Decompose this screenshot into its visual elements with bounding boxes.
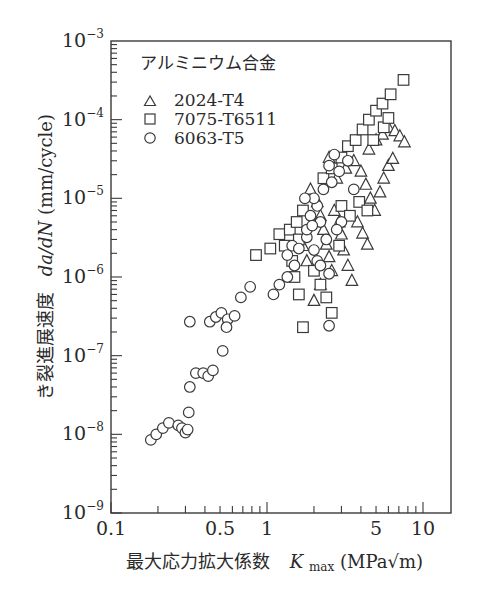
legend-entry-2024-t4: 2024-T4	[145, 90, 245, 110]
circle-marker-icon	[245, 282, 256, 293]
plot-frame	[111, 41, 451, 513]
legend-title: アルミニウム合金	[140, 53, 276, 73]
circle-marker-icon	[324, 320, 335, 331]
triangle-marker-icon	[323, 251, 335, 262]
square-marker-icon	[326, 308, 337, 319]
square-marker-icon	[251, 250, 262, 261]
legend: アルミニウム合金 2024-T4 7075-T6511 6063-T5	[140, 53, 277, 148]
x-axis-tick-labels: 0.10.51510	[96, 517, 435, 539]
circle-marker-icon	[182, 424, 193, 435]
square-marker-icon	[398, 75, 409, 86]
square-marker-icon	[385, 89, 396, 100]
triangle-marker-icon	[378, 172, 390, 183]
circle-marker-icon	[326, 177, 337, 188]
triangle-marker-icon	[387, 152, 399, 163]
y-axis-tick-labels: 10−910−810−710−610−510−410−3	[62, 27, 104, 523]
y-axis-title: き裂進展速度 da/dN (mm/cycle)	[35, 114, 56, 400]
triangle-marker-icon	[346, 274, 358, 285]
circle-marker-icon	[331, 224, 342, 235]
square-marker-icon	[265, 243, 276, 254]
circle-marker-icon	[185, 316, 196, 327]
square-marker-icon	[298, 322, 309, 333]
circle-marker-icon	[324, 160, 335, 171]
svg-text:き裂進展速度 da/dN (mm/c: き裂進展速度 da/dN (mm/cycle)	[35, 114, 56, 400]
y-tick-label: 10−7	[62, 342, 104, 366]
circle-marker-icon	[329, 149, 340, 160]
circle-marker-icon	[324, 268, 335, 279]
square-marker-icon	[362, 205, 373, 216]
triangle-marker-icon	[308, 294, 320, 305]
circle-marker-icon	[229, 311, 240, 322]
x-axis-symbol: K	[289, 551, 305, 572]
circle-marker-icon	[183, 407, 194, 418]
square-marker-icon	[357, 124, 368, 135]
legend-label: 2024-T4	[174, 90, 245, 110]
circle-marker-icon	[315, 260, 326, 271]
circle-marker-icon	[282, 272, 293, 283]
square-marker-icon	[321, 292, 332, 303]
x-axis-subscript: max	[309, 560, 335, 574]
circle-marker-icon	[307, 220, 318, 231]
x-tick-label: 0.1	[96, 517, 126, 539]
square-marker-icon	[336, 201, 347, 212]
circle-marker-icon	[321, 234, 332, 245]
square-marker-icon	[294, 289, 305, 300]
triangle-marker-icon	[365, 192, 377, 203]
square-marker-icon	[291, 217, 302, 228]
circle-marker-icon	[208, 365, 219, 376]
triangle-marker-icon	[374, 186, 386, 197]
triangle-marker-icon	[145, 96, 156, 106]
x-axis-ticks	[111, 502, 423, 513]
crack-growth-chart: 0.10.51510 10−910−810−710−610−510−410−3 …	[0, 0, 491, 604]
y-tick-label: 10−3	[62, 27, 104, 51]
x-axis-title-prefix: 最大応力拡大係数	[126, 551, 270, 572]
circle-marker-icon	[236, 292, 247, 303]
triangle-marker-icon	[357, 227, 369, 238]
circle-marker-icon	[289, 260, 300, 271]
y-tick-label: 10−5	[62, 184, 104, 208]
square-marker-icon	[315, 279, 326, 290]
y-axis-title-prefix: き裂進展速度	[35, 292, 56, 400]
legend-entry-7075-t6511: 7075-T6511	[145, 109, 277, 129]
circle-marker-icon	[217, 346, 228, 357]
triangle-marker-icon	[362, 238, 374, 249]
x-tick-label: 1	[261, 517, 273, 539]
x-axis-title: 最大応力拡大係数 K max (MPa√m)	[126, 551, 423, 575]
legend-label: 7075-T6511	[174, 109, 277, 129]
square-marker-icon	[368, 135, 379, 146]
circle-marker-icon	[348, 184, 359, 195]
x-tick-label: 10	[411, 517, 435, 539]
circle-marker-icon	[300, 193, 311, 204]
triangle-marker-icon	[342, 259, 354, 270]
square-marker-icon	[145, 114, 155, 124]
y-axis-unit: (mm/cycle)	[35, 114, 56, 215]
y-tick-label: 10−4	[62, 106, 104, 130]
circle-marker-icon	[343, 155, 354, 166]
circle-marker-icon	[294, 243, 305, 254]
square-marker-icon	[383, 113, 394, 124]
x-axis-unit: (MPa√m)	[340, 551, 423, 572]
circle-marker-icon	[185, 382, 196, 393]
circle-marker-icon	[305, 210, 316, 221]
y-tick-label: 10−6	[62, 263, 104, 287]
circle-marker-icon	[268, 289, 279, 300]
circle-marker-icon	[334, 166, 345, 177]
y-axis-symbol: da/dN	[35, 219, 56, 276]
legend-entry-6063-t5: 6063-T5	[145, 128, 245, 148]
circle-marker-icon	[309, 245, 320, 256]
x-tick-label: 5	[370, 517, 382, 539]
y-axis-ticks	[111, 45, 122, 513]
square-marker-icon	[274, 229, 285, 240]
y-tick-label: 10−8	[62, 420, 104, 444]
square-marker-icon	[334, 240, 345, 251]
legend-label: 6063-T5	[174, 128, 245, 148]
svg-text:最大応力拡大係数 K max: 最大応力拡大係数 K max (MPa√m)	[126, 551, 423, 575]
circle-marker-icon	[221, 322, 232, 333]
triangle-marker-icon	[355, 165, 367, 176]
triangle-marker-icon	[360, 178, 372, 189]
square-marker-icon	[350, 135, 361, 146]
x-tick-label: 0.5	[205, 517, 235, 539]
triangle-marker-icon	[301, 255, 313, 266]
circle-marker-icon	[145, 133, 155, 143]
